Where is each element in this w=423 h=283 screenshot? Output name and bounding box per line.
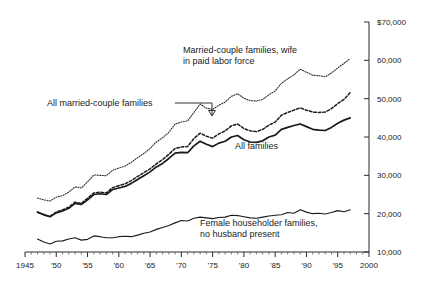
x-axis-tick-label: '75 [207, 261, 218, 270]
female-label-line1: Female householder families, [200, 218, 318, 229]
annotation-married-leader [175, 103, 215, 116]
wife-label-line1: Married-couple families, wife [183, 45, 297, 56]
y-axis-tick-label: 20,000 [377, 210, 402, 219]
annotation-wife-label: Married-couple families, wife in paid la… [183, 45, 297, 67]
x-axis-tick-label: '95 [333, 261, 344, 270]
x-axis-tick-label: '65 [145, 261, 156, 270]
series-line [38, 118, 351, 217]
y-axis-tick-label: 60,000 [377, 56, 402, 65]
x-axis-tick-label: '90 [301, 261, 312, 270]
chart-series-layer [38, 58, 351, 244]
chart-canvas: $70,00060,00050,00040,00030,00020,00010,… [0, 0, 423, 283]
x-axis-tick-label: '55 [82, 261, 93, 270]
x-axis-tick-label: '60 [114, 261, 125, 270]
y-axis-tick-label: 10,000 [377, 248, 402, 257]
income-line-chart: $70,00060,00050,00040,00030,00020,00010,… [0, 0, 423, 283]
y-axis-tick-label: 50,000 [377, 95, 402, 104]
wife-label-line2: in paid labor force [183, 56, 297, 67]
y-axis-tick-label: $70,000 [377, 18, 406, 27]
y-axis-tick-label: 30,000 [377, 171, 402, 180]
annotation-married-label: All married-couple families [47, 98, 153, 108]
x-axis-tick-label: '50 [51, 261, 62, 270]
x-axis-tick-label: 2000 [360, 261, 378, 270]
y-axis-tick-label: 40,000 [377, 133, 402, 142]
female-label-line2: no husband present [200, 229, 318, 240]
annotation-all-families-label: All families [235, 141, 278, 151]
series-line [38, 93, 351, 217]
series-line [38, 58, 351, 201]
x-axis-tick-label: '70 [176, 261, 187, 270]
x-axis-tick-label: '80 [239, 261, 250, 270]
x-axis-ticks: 1945'50'55'60'65'70'75'80'85'90'952000 [16, 252, 378, 270]
annotation-female-householder-label: Female householder families, no husband … [200, 218, 318, 240]
x-axis-tick-label: 1945 [16, 261, 34, 270]
x-axis-tick-label: '85 [270, 261, 281, 270]
y-axis-ticks: $70,00060,00050,00040,00030,00020,00010,… [364, 18, 406, 257]
